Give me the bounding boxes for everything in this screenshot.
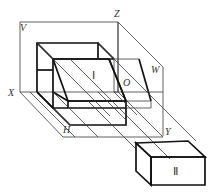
projection-diagram: V Z W X O H Y Ⅰ Ⅱ [0, 0, 210, 195]
object-1-label: Ⅰ [92, 69, 95, 81]
h-label: H [62, 124, 71, 135]
o-label: O [123, 77, 130, 88]
object-2-label: Ⅱ [173, 165, 178, 177]
v-plane [20, 22, 118, 92]
x-label: X [7, 87, 15, 98]
v-label: V [20, 22, 28, 33]
z-label: Z [114, 8, 120, 19]
object-2 [136, 141, 205, 185]
y-label: Y [165, 126, 172, 137]
w-label: W [151, 64, 161, 75]
diagram-canvas: V Z W X O H Y Ⅰ Ⅱ [0, 0, 210, 195]
